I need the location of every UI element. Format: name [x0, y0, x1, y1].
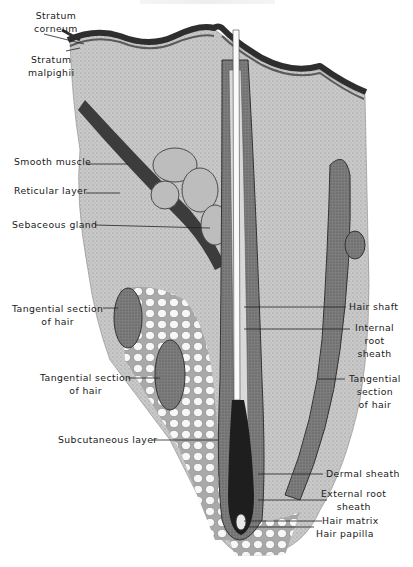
hair-papilla-shape — [236, 514, 246, 530]
tangential-section-left-lower — [155, 340, 185, 410]
label-line: External root — [321, 487, 386, 500]
label-stratum-corneum: Stratum corneum — [34, 9, 78, 35]
label-line: of hair — [40, 384, 131, 397]
tangential-section-left-upper — [114, 288, 142, 348]
label-hair-matrix: Hair matrix — [322, 514, 379, 527]
label-external-root-sheath: External root sheath — [321, 487, 386, 513]
label-tangential-section-1: Tangential section of hair — [12, 302, 103, 328]
label-stratum-malpighii: Stratum malpighii — [28, 53, 74, 79]
label-sebaceous-gland: Sebaceous gland — [12, 218, 97, 231]
label-line: Internal — [355, 321, 394, 334]
label-line: section — [349, 385, 401, 398]
label-line: of hair — [12, 315, 103, 328]
label-line: Stratum — [34, 9, 78, 22]
label-line: Tangential section — [12, 302, 103, 315]
label-internal-root-sheath: Internal root sheath — [355, 321, 394, 360]
label-hair-shaft: Hair shaft — [349, 300, 398, 313]
label-line: corneum — [34, 22, 78, 35]
label-line: of hair — [349, 398, 401, 411]
label-reticular-layer: Reticular layer — [14, 184, 87, 197]
label-line: Tangential section — [40, 371, 131, 384]
label-line: malpighii — [28, 66, 74, 79]
label-dermal-sheath: Dermal sheath — [326, 467, 400, 480]
label-line: sheath — [321, 500, 386, 513]
label-line: Stratum — [28, 53, 74, 66]
label-tangential-section-2: Tangential section of hair — [40, 371, 131, 397]
small-follicle-right — [345, 231, 365, 259]
histology-illustration — [0, 0, 413, 567]
label-tangential-section-3: Tangential section of hair — [349, 372, 401, 411]
label-hair-papilla: Hair papilla — [316, 527, 374, 540]
hair-shaft-core — [233, 30, 240, 400]
label-subcutaneous-layer: Subcutaneous layer — [58, 433, 158, 446]
label-smooth-muscle: Smooth muscle — [14, 155, 91, 168]
label-line: Tangential — [349, 372, 401, 385]
label-line: sheath — [355, 347, 394, 360]
label-line: root — [355, 334, 394, 347]
